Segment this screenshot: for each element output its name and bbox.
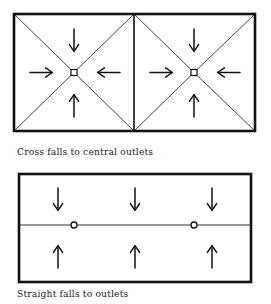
diagonal-bottom-right: [194, 73, 255, 132]
figure-sheet: Cross falls to central outlets Straight …: [0, 0, 271, 304]
arrow-up-1: [53, 246, 62, 268]
straight-falls-panel: [19, 174, 251, 282]
arrow-up-right-cell: [189, 95, 198, 117]
arrow-right-left-cell: [30, 68, 52, 77]
cross-falls-frame: [14, 14, 255, 131]
diagonal-top-left: [134, 14, 194, 73]
cross-falls-panel: [14, 14, 255, 131]
arrow-down-1: [53, 188, 62, 210]
arrow-down-right-cell: [189, 29, 198, 51]
diagonal-top-right: [74, 14, 134, 73]
outlet-circle-left: [71, 222, 77, 228]
right-cell-diagonals: [134, 14, 255, 131]
arrow-right-right-cell: [150, 68, 172, 77]
panel-outline-rect: [19, 174, 251, 282]
outlet-square-right: [191, 70, 197, 76]
arrow-up-left-cell: [69, 95, 78, 117]
arrow-down-2: [130, 188, 139, 210]
diagonal-bottom-left: [134, 73, 194, 132]
diagonal-top-left: [14, 14, 74, 73]
left-cell-diagonals: [14, 14, 134, 131]
arrow-left-left-cell: [98, 68, 120, 77]
diagonal-bottom-right: [74, 73, 134, 132]
caption-cross-falls: Cross falls to central outlets: [17, 146, 153, 157]
diagonal-bottom-left: [14, 73, 74, 132]
outlet-square-left: [71, 70, 77, 76]
caption-straight-falls: Straight falls to outlets: [17, 288, 128, 299]
arrow-up-2: [130, 246, 139, 268]
arrow-down-3: [207, 188, 216, 210]
arrow-left-right-cell: [218, 68, 240, 77]
outlet-circle-right: [191, 222, 197, 228]
diagonal-top-right: [194, 14, 255, 73]
panel-outline-rect: [14, 14, 255, 131]
arrow-down-left-cell: [69, 29, 78, 51]
arrow-up-3: [207, 246, 216, 268]
